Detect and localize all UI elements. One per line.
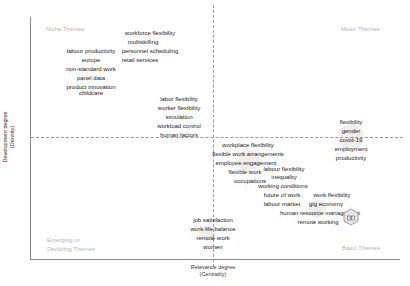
y-axis-title-line2: (Density) — [9, 77, 16, 197]
term-label: job satisfaction — [193, 216, 233, 225]
term-label: flexible work — [228, 168, 261, 177]
quadrant-label-niche: Niche Themes — [46, 25, 85, 34]
term-label: gig economy — [309, 200, 343, 209]
term-label: workplace flexibility — [222, 141, 273, 150]
term-label: retail services — [122, 56, 159, 65]
quadrant-label-emerging-line2: Declining Themes — [47, 245, 95, 254]
term-label: productivity — [336, 154, 366, 163]
term-label: flexibility — [340, 118, 363, 127]
term-label: remote working — [297, 218, 338, 227]
term-label: childcare — [79, 89, 103, 98]
term-label: simulation — [165, 113, 192, 122]
x-axis-line — [30, 259, 400, 260]
term-label: human factors — [160, 131, 198, 140]
x-axis-title: Relevance degree (Centrality) — [191, 264, 236, 278]
term-label: future of work — [264, 191, 300, 200]
term-label: labour productivity — [67, 47, 116, 56]
y-axis-title-line1: Development degree — [2, 77, 9, 197]
term-label: work flexibility — [313, 191, 350, 200]
term-label: work-life balance — [190, 225, 235, 234]
term-label: employment — [335, 145, 368, 154]
term-label: labour market — [264, 200, 301, 209]
y-axis-line — [30, 17, 31, 260]
thematic-map-chart: Niche Themes Motor Themes Emerging or De… — [0, 0, 410, 286]
term-label: women — [203, 243, 222, 252]
term-label: worker flexibility — [158, 104, 200, 113]
term-label: personnel scheduling — [122, 47, 179, 56]
term-label: covid-19 — [340, 136, 363, 145]
cluster-hexagon-icon — [343, 208, 359, 226]
x-axis-title-line1: Relevance degree — [191, 264, 236, 271]
term-label: remote work — [196, 234, 229, 243]
term-label: inequality — [271, 173, 296, 182]
quadrant-label-emerging-line1: Emerging or — [47, 236, 95, 245]
term-label: workload control — [157, 122, 201, 131]
term-label: working conditions — [258, 182, 307, 191]
y-axis-title: Development degree (Density) — [2, 77, 16, 197]
quadrant-label-motor: Motor Themes — [341, 25, 380, 34]
term-label: multiskilling — [128, 38, 159, 47]
quadrant-label-basic: Basic Themes — [342, 244, 380, 253]
term-label: gender — [342, 127, 361, 136]
term-label: europe — [82, 56, 101, 65]
term-label: non-standard work — [66, 65, 116, 74]
quadrant-label-emerging: Emerging or Declining Themes — [47, 236, 95, 254]
term-label: panel data — [77, 74, 105, 83]
term-label: workforce flexibility — [125, 29, 175, 38]
term-label: flexible work arrangements — [212, 150, 284, 159]
x-axis-title-line2: (Centrality) — [191, 271, 236, 278]
term-label: labor flexibility — [160, 95, 198, 104]
